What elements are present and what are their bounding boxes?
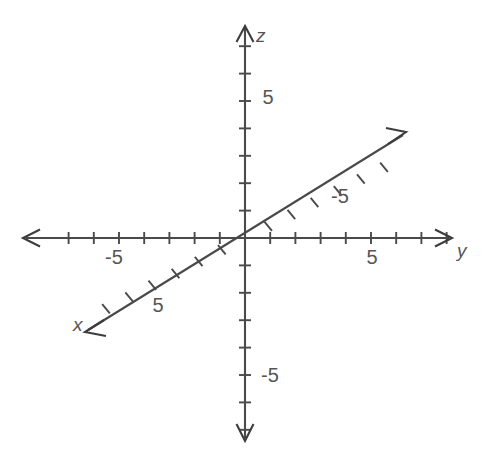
x-axis-tick-label-5: 5 [152,294,163,316]
x-tick-4 [149,281,157,290]
coordinate-axes-figure: z 5 -5 y 5 -5 x 5 -5 [0,0,493,469]
y-axis-label: y [455,240,468,261]
x-tick-2 [195,257,203,266]
y-axis-tick-label-neg5: -5 [105,246,123,268]
z-axis-tick-label-neg5: -5 [261,364,279,386]
axes-canvas: z 5 -5 y 5 -5 x 5 -5 [0,0,493,469]
x-tick-neg2 [288,210,296,219]
x-tick-neg1 [264,222,272,231]
x-tick-neg6 [380,163,388,172]
x-tick-neg3 [311,198,319,207]
z-axis-tick-label-5: 5 [262,86,273,108]
x-axis-label: x [72,314,84,335]
x-axis-group: x 5 -5 [72,128,406,336]
x-tick-5 [125,292,133,301]
x-axis-positive-arrowhead [85,320,106,336]
x-tick-6 [102,304,110,313]
x-tick-neg5 [357,174,365,183]
y-axis-tick-label-5: 5 [366,246,377,268]
x-axis-tick-label-neg5: -5 [331,185,349,207]
z-axis-label: z [255,25,266,46]
